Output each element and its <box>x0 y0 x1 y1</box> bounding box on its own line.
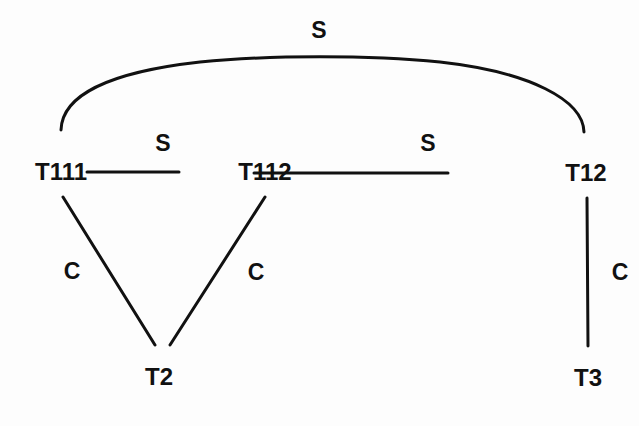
edge-label-t112-t2: C <box>248 261 265 284</box>
edge-label-t12-t3: C <box>612 261 629 284</box>
edge-label-t111-t2: C <box>64 260 81 283</box>
edges-layer <box>0 0 639 426</box>
node-t2: T2 <box>145 365 173 389</box>
edge-label-t112-t12: S <box>420 132 435 155</box>
node-t111: T111 <box>35 160 87 184</box>
node-t3: T3 <box>574 366 602 390</box>
edge-label-arc: S <box>311 19 326 42</box>
edge-t12-t3 <box>587 198 588 346</box>
edge-t111-t12-arc <box>61 57 584 132</box>
node-t112: T112 <box>238 160 291 184</box>
diagram-canvas: T111 T112 T12 T2 T3 S S S C C C <box>0 0 639 426</box>
edge-label-t111-t112: S <box>155 132 170 155</box>
node-t12: T12 <box>565 161 606 185</box>
